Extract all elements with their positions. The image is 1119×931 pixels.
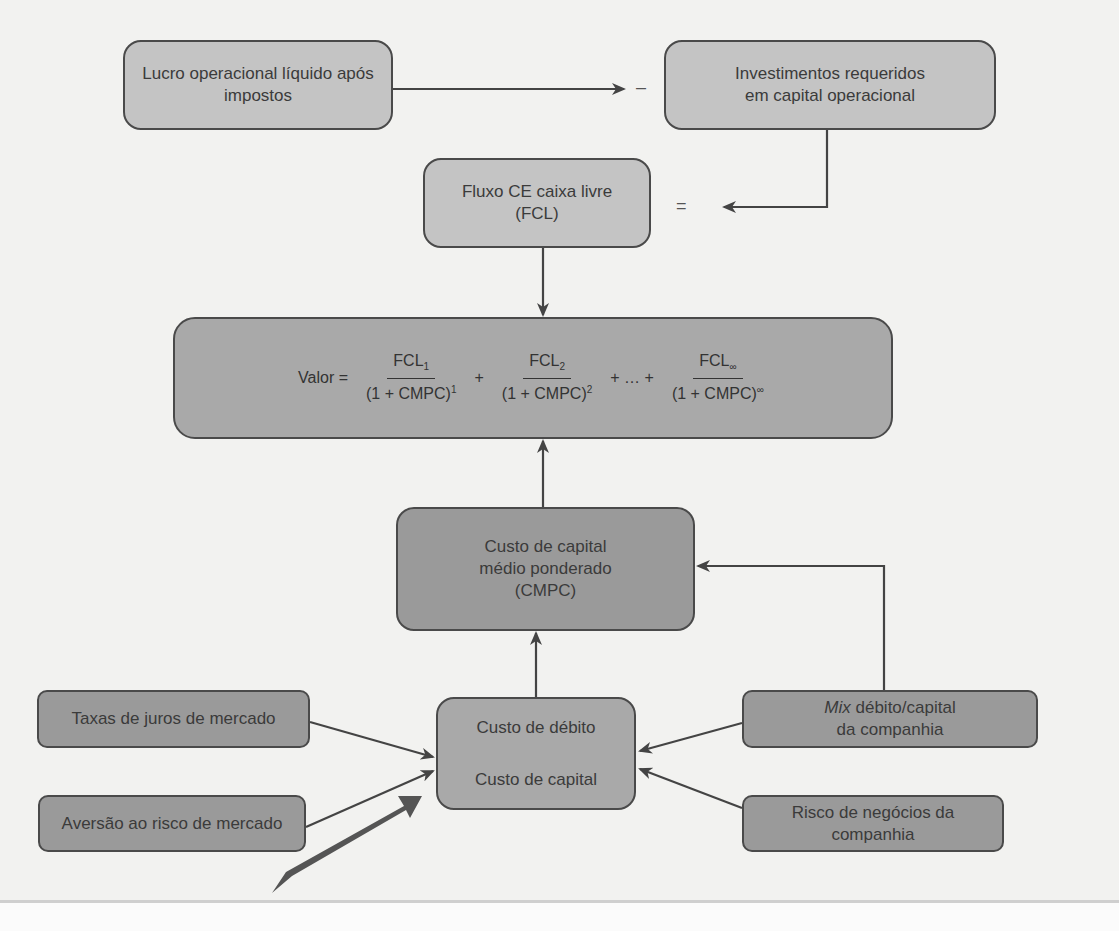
node-mix-debito-capital: Mix débito/capital da companhia bbox=[742, 690, 1038, 748]
node-label: da companhia bbox=[837, 719, 944, 741]
node-label: em capital operacional bbox=[745, 85, 915, 107]
node-cmpc: Custo de capital médio ponderado (CMPC) bbox=[396, 507, 695, 631]
node-label: Lucro operacional líquido após bbox=[142, 63, 374, 85]
node-taxas-juros: Taxas de juros de mercado bbox=[37, 690, 310, 748]
minus-operator: – bbox=[636, 77, 646, 98]
formula-term-1: FCL1 (1 + CMPC)1 bbox=[362, 350, 460, 406]
node-label: impostos bbox=[224, 85, 292, 107]
equals-operator: = bbox=[676, 196, 687, 217]
formula-ellipsis: + … + bbox=[610, 367, 654, 389]
node-label: Custo de débito bbox=[476, 717, 595, 739]
arrow-mix-to-cmpc bbox=[698, 566, 884, 690]
formula-term-2: FCL2 (1 + CMPC)2 bbox=[498, 350, 596, 406]
node-label: Mix débito/capital bbox=[824, 697, 955, 719]
node-label: (CMPC) bbox=[515, 580, 576, 602]
node-label: Fluxo CE caixa livre bbox=[462, 181, 612, 203]
node-aversao-risco: Aversão ao risco de mercado bbox=[38, 795, 306, 852]
formula-lhs: Valor = bbox=[298, 367, 348, 389]
node-lucro-operacional: Lucro operacional líquido após impostos bbox=[123, 40, 393, 130]
formula-plus: + bbox=[474, 367, 483, 389]
node-label: Risco de negócios da bbox=[792, 802, 955, 824]
node-label: médio ponderado bbox=[479, 558, 611, 580]
node-label: Custo de capital bbox=[485, 536, 607, 558]
node-valor-formula: Valor = FCL1 (1 + CMPC)1 + FCL2 (1 + CMP… bbox=[173, 317, 893, 439]
arrow-risco-to-custos bbox=[640, 769, 742, 808]
arrow-taxas-to-custos bbox=[310, 722, 433, 757]
node-label: Custo de capital bbox=[475, 769, 597, 791]
node-label: Taxas de juros de mercado bbox=[71, 708, 275, 730]
node-label: companhia bbox=[831, 824, 914, 846]
arrow-investimentos-to-equals bbox=[724, 130, 827, 207]
node-label: (FCL) bbox=[515, 203, 558, 225]
node-risco-negocios: Risco de negócios da companhia bbox=[742, 795, 1004, 852]
valor-formula: Valor = FCL1 (1 + CMPC)1 + FCL2 (1 + CMP… bbox=[298, 350, 768, 406]
node-label: Investimentos requeridos bbox=[735, 63, 925, 85]
node-label: Aversão ao risco de mercado bbox=[62, 813, 283, 835]
formula-term-infinity: FCL∞ (1 + CMPC)∞ bbox=[668, 350, 768, 406]
node-investimentos: Investimentos requeridos em capital oper… bbox=[664, 40, 996, 130]
node-custos: Custo de débito Custo de capital bbox=[436, 697, 636, 810]
arrow-mix-to-custos bbox=[640, 723, 742, 751]
node-fcl: Fluxo CE caixa livre (FCL) bbox=[423, 158, 651, 248]
